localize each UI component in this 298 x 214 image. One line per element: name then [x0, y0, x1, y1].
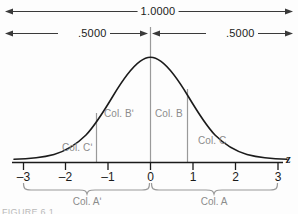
region-label-col-b: Col. B	[155, 108, 183, 119]
total-area-label: 1.0000	[138, 5, 179, 17]
tick-label-pos3: 3	[268, 170, 288, 184]
tick-label-neg2: –2	[56, 170, 76, 184]
region-label-col-c: Col. C	[198, 135, 226, 146]
left-half-area-label: .5000	[75, 27, 110, 39]
brace-left	[24, 183, 150, 194]
tick-label-neg1: –1	[98, 170, 118, 184]
brace-label-col-a-prime: Col. Aʹ	[73, 196, 102, 207]
brace-label-col-a: Col. A	[201, 196, 228, 207]
tick-label-pos1: 1	[183, 170, 203, 184]
z-axis-ticks	[24, 163, 279, 171]
tick-label-zero: 0	[141, 170, 161, 184]
right-half-area-label: .5000	[223, 27, 258, 39]
region-label-col-c-prime: Col. Cʹ	[62, 142, 92, 153]
figure-caption: FIGURE 6.1	[2, 207, 54, 214]
z-axis-label: z	[286, 152, 291, 167]
region-label-col-b-prime: Col. Bʹ	[104, 108, 134, 119]
tick-label-pos2: 2	[226, 170, 246, 184]
normal-distribution-figure: 1.0000 .5000 .5000 Col. Cʹ Col. Bʹ Col. …	[0, 0, 298, 214]
tick-label-neg3: –3	[14, 170, 34, 184]
brace-right	[152, 183, 278, 194]
